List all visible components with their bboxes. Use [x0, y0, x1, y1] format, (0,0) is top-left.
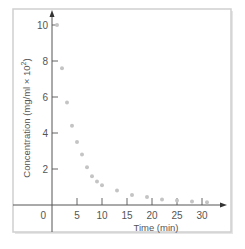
- x-tick-label: 20: [146, 210, 158, 221]
- data-point: [115, 189, 119, 193]
- x-tick-label: 25: [171, 210, 183, 221]
- x-axis-label: Time (min): [133, 222, 178, 233]
- y-axis-label-text: Concentration (mg/ml × 10: [21, 65, 32, 177]
- y-tick-label: 6: [42, 92, 48, 103]
- y-tick-label: 4: [42, 128, 48, 139]
- data-point: [160, 198, 164, 202]
- data-point: [145, 195, 149, 199]
- x-tick-label: 0: [40, 210, 46, 221]
- y-tick-label: 10: [37, 20, 49, 31]
- svg-text:Concentration (mg/ml × 102): Concentration (mg/ml × 102): [20, 58, 32, 177]
- x-tick-label: 10: [96, 210, 108, 221]
- data-point: [90, 174, 94, 178]
- x-tick-label: 15: [121, 210, 133, 221]
- data-point: [100, 183, 104, 187]
- data-point: [130, 193, 134, 197]
- y-axis-label: Concentration (mg/ml × 102): [20, 58, 32, 177]
- data-point: [95, 180, 99, 184]
- y-axis-label-tail: ): [21, 58, 32, 61]
- x-tick-label: 30: [196, 210, 208, 221]
- y-tick-label: 2: [42, 164, 48, 175]
- x-tick-label: 5: [74, 210, 80, 221]
- data-point: [190, 199, 194, 203]
- data-point: [70, 124, 74, 128]
- data-point: [65, 100, 69, 104]
- scatter-chart: Concentration (mg/ml × 102) 246810 05101…: [0, 0, 245, 249]
- data-point: [75, 140, 79, 144]
- data-point: [175, 199, 179, 203]
- chart-frame: [13, 9, 231, 232]
- y-tick-label: 8: [42, 56, 48, 67]
- data-point: [80, 153, 84, 157]
- data-point: [55, 23, 59, 27]
- data-point: [60, 66, 64, 70]
- data-point: [85, 165, 89, 169]
- data-point: [205, 200, 209, 204]
